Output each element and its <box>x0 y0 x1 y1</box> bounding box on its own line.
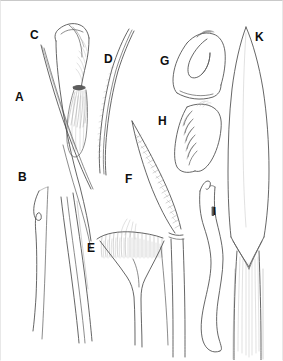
structure-h <box>175 101 222 172</box>
structure-b <box>33 187 48 339</box>
figure-label-e: E <box>87 242 95 254</box>
structure-f <box>121 121 185 357</box>
illustration-plate: .ln { fill:none; stroke:#4a4a4a; stroke-… <box>0 0 283 361</box>
figure-linework: .ln { fill:none; stroke:#4a4a4a; stroke-… <box>1 1 283 361</box>
figure-label-b: B <box>18 171 27 183</box>
structure-c <box>55 24 91 249</box>
structure-e <box>97 232 164 347</box>
structure-k <box>228 27 269 361</box>
structure-b-shafts <box>61 193 92 343</box>
figure-label-k: K <box>255 31 264 43</box>
structure-d <box>98 29 134 175</box>
figure-label-d: D <box>104 53 113 65</box>
figure-label-i: I <box>213 206 216 217</box>
figure-label-g: G <box>160 55 170 67</box>
figure-label-a: A <box>15 91 24 103</box>
figure-label-f: F <box>125 173 133 185</box>
structure-g <box>173 31 225 100</box>
figure-label-c: C <box>30 29 39 41</box>
structure-i <box>200 181 223 352</box>
figure-label-h: H <box>158 115 167 127</box>
